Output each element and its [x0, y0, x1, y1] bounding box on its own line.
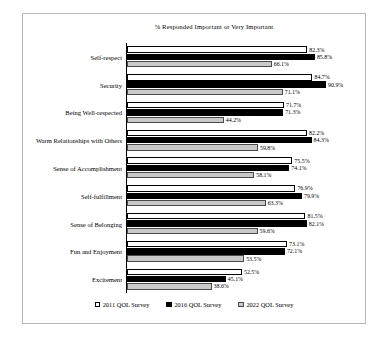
bar-value-label: 66.1%	[272, 61, 289, 67]
bar	[127, 144, 258, 150]
bar-value-label: 74.1%	[289, 165, 306, 171]
bar-row: 76.9%	[127, 185, 346, 191]
bar-value-label: 71.7%	[284, 102, 301, 108]
bar	[127, 185, 295, 191]
bar-group: Being Well-respected71.7%71.3%44.2%	[126, 99, 345, 127]
bar	[127, 165, 289, 171]
bar-row: 59.6%	[127, 228, 346, 234]
bar-value-label: 79.9%	[302, 193, 319, 199]
chart-container: % Responded Important or Very Important …	[22, 13, 366, 324]
category-label: Warm Relationships with Others	[0, 137, 126, 144]
bar-value-label: 58.1%	[254, 172, 271, 178]
category-label: Sense of Belonging	[0, 220, 126, 227]
bar	[127, 61, 272, 67]
chart-title: % Responded Important or Very Important	[23, 23, 365, 30]
bar-row: 79.9%	[127, 193, 346, 199]
bar-row: 82.1%	[127, 220, 346, 226]
bar-value-label: 73.1%	[287, 241, 304, 247]
bar-row: 59.8%	[127, 144, 346, 150]
bar-value-label: 44.2%	[224, 117, 241, 123]
bar-row: 66.1%	[127, 61, 346, 67]
bar-value-label: 82.2%	[307, 130, 324, 136]
bar-value-label: 90.9%	[326, 82, 343, 88]
bar	[127, 193, 302, 199]
category-label: Sense of Accomplishment	[0, 164, 126, 171]
category-label: Being Well-respected	[0, 109, 126, 116]
bar-value-label: 85.8%	[315, 54, 332, 60]
bar	[127, 241, 287, 247]
bar-group: Self-fulfillment76.9%79.9%63.3%	[126, 182, 345, 210]
category-label: Excitement	[0, 276, 126, 283]
legend-swatch-2011	[95, 302, 101, 308]
legend-item-2016: 2016 QOL Survey	[166, 301, 221, 308]
bar-row: 84.3%	[127, 137, 346, 143]
bar-value-label: 63.3%	[266, 200, 283, 206]
bar-value-label: 76.9%	[295, 185, 312, 191]
legend-label-2016: 2016 QOL Survey	[174, 301, 221, 308]
legend-item-2011: 2011 QOL Survey	[95, 301, 150, 308]
bar-row: 85.8%	[127, 54, 346, 60]
bar	[127, 109, 283, 115]
bar-group: Security84.7%90.9%71.1%	[126, 71, 345, 99]
bar-row: 82.2%	[127, 130, 346, 136]
bar-value-label: 38.6%	[212, 283, 229, 289]
bar	[127, 220, 307, 226]
bar	[127, 157, 292, 163]
bar-value-label: 75.5%	[292, 158, 309, 164]
bar	[127, 213, 305, 219]
bar-row: 84.7%	[127, 74, 346, 80]
category-label: Self-respect	[0, 53, 126, 60]
bar-value-label: 52.5%	[242, 269, 259, 275]
bar	[127, 255, 244, 261]
bar	[127, 54, 315, 60]
bar-row: 71.7%	[127, 102, 346, 108]
legend-item-2022: 2022 QOL Survey	[238, 301, 293, 308]
bar-value-label: 45.1%	[226, 276, 243, 282]
bar	[127, 81, 326, 87]
legend-swatch-2022	[238, 302, 244, 308]
bar-group: Sense of Belonging81.5%82.1%59.6%	[126, 210, 345, 238]
bar	[127, 172, 254, 178]
bar-row: 71.1%	[127, 89, 346, 95]
bar-row: 73.1%	[127, 241, 346, 247]
bar	[127, 74, 312, 80]
bar	[127, 283, 212, 289]
bar-value-label: 84.7%	[312, 74, 329, 80]
bar	[127, 130, 307, 136]
plot-area: Self-respect82.3%85.8%66.1%Security84.7%…	[126, 43, 345, 293]
bar	[127, 89, 283, 95]
bar-value-label: 71.3%	[283, 109, 300, 115]
bar-row: 38.6%	[127, 283, 346, 289]
category-label: Self-fulfillment	[0, 192, 126, 199]
bar-group: Sense of Accomplishment75.5%74.1%58.1%	[126, 154, 345, 182]
bar-row: 82.3%	[127, 46, 346, 52]
legend-swatch-2016	[166, 302, 172, 308]
bar-group: Warm Relationships with Others82.2%84.3%…	[126, 126, 345, 154]
bar-group: Self-respect82.3%85.8%66.1%	[126, 43, 345, 71]
bar	[127, 46, 307, 52]
bar-value-label: 81.5%	[305, 213, 322, 219]
bar-value-label: 71.1%	[283, 89, 300, 95]
bar	[127, 276, 226, 282]
bar-value-label: 59.6%	[258, 228, 275, 234]
bar	[127, 228, 258, 234]
bar-row: 72.1%	[127, 248, 346, 254]
bar	[127, 200, 266, 206]
category-label: Security	[0, 81, 126, 88]
bar-value-label: 53.5%	[244, 256, 261, 262]
bar-row: 81.5%	[127, 213, 346, 219]
legend-label-2022: 2022 QOL Survey	[246, 301, 293, 308]
bar	[127, 117, 224, 123]
bar-group: Excitement52.5%45.1%38.6%	[126, 265, 345, 293]
bar-row: 63.3%	[127, 200, 346, 206]
chart-legend: 2011 QOL Survey 2016 QOL Survey 2022 QOL…	[23, 301, 365, 308]
bar-value-label: 72.1%	[285, 248, 302, 254]
bar-value-label: 82.1%	[307, 221, 324, 227]
bar-group: Fun and Enjoyment73.1%72.1%53.5%	[126, 237, 345, 265]
bar-row: 75.5%	[127, 157, 346, 163]
bar	[127, 102, 284, 108]
category-label: Fun and Enjoyment	[0, 248, 126, 255]
bar-value-label: 82.3%	[307, 47, 324, 53]
legend-label-2011: 2011 QOL Survey	[103, 301, 150, 308]
bar-row: 74.1%	[127, 165, 346, 171]
